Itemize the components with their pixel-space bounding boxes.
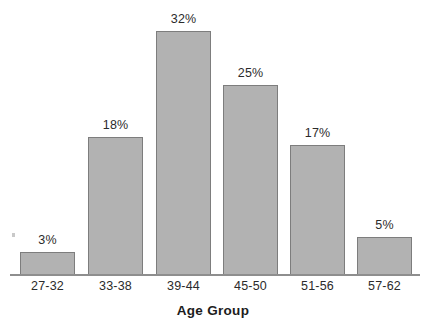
bar-value-label: 17% [305,126,330,140]
bar-rect[interactable] [290,145,345,275]
bar-value-label: 25% [238,66,263,80]
scan-artifact-speck [12,233,15,237]
bar-value-label: 3% [38,233,56,247]
plot-area: 3% 18% 32% 25% 17% 5% [0,0,426,276]
bar-value-label: 5% [375,218,393,232]
bar-rect[interactable] [223,85,278,275]
x-axis-tick-label: 33-38 [88,279,143,293]
x-axis-line [10,274,420,276]
bar-rect[interactable] [20,252,75,275]
bar-value-label: 32% [171,12,196,26]
x-axis-tick-label: 27-32 [20,279,75,293]
bar-chart: 3% 18% 32% 25% 17% 5% 27-32 33-38 39-4 [0,0,426,333]
x-axis-tick-label: 39-44 [156,279,211,293]
bar-rect[interactable] [357,237,412,275]
bar-rect[interactable] [88,137,143,275]
bar-rect[interactable] [156,31,211,275]
x-axis-tick-label: 57-62 [357,279,412,293]
x-axis-tick-labels: 27-32 33-38 39-44 45-50 51-56 57-62 [0,279,426,301]
x-axis-tick-label: 51-56 [290,279,345,293]
x-axis-tick-label: 45-50 [223,279,278,293]
bar-value-label: 18% [103,118,128,132]
x-axis-title: Age Group [0,303,426,318]
